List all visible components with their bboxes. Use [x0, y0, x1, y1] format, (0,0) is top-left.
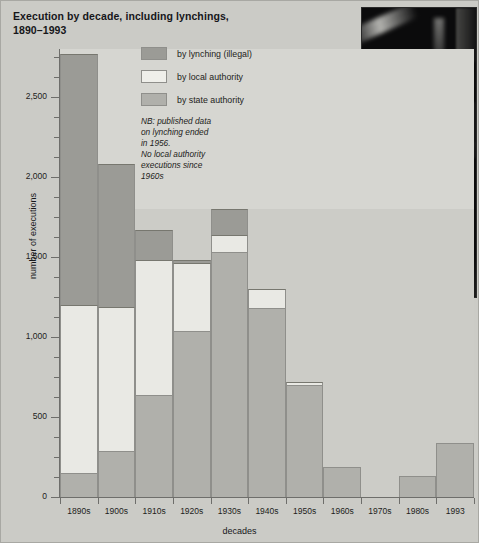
- x-tick: [474, 498, 475, 504]
- legend: by lynching (illegal)by local authorityb…: [141, 47, 331, 182]
- bar-segment-state-1940s: [248, 308, 286, 497]
- bar-segment-local-1930s: [211, 235, 249, 253]
- legend-note-line: NB: published data: [141, 116, 331, 127]
- y-minor-tick: [54, 477, 60, 478]
- bar-segment-state-1960s: [323, 467, 361, 497]
- y-minor-tick: [54, 457, 60, 458]
- y-axis-title: number of executions: [28, 166, 38, 306]
- x-tick: [135, 498, 136, 504]
- bar-1900s[interactable]: [98, 164, 136, 497]
- y-tick-label-0: 0: [1, 491, 47, 501]
- x-tick: [248, 498, 249, 504]
- y-minor-tick: [54, 397, 60, 398]
- y-tick-label-2500: 2,500: [1, 91, 47, 101]
- y-tick-1000: [51, 337, 60, 338]
- x-axis-line: [59, 497, 474, 498]
- y-tick-0: [51, 497, 60, 498]
- x-tick: [323, 498, 324, 504]
- legend-note-line: on lynching ended: [141, 127, 331, 138]
- bar-segment-state-1910s: [135, 395, 173, 497]
- legend-swatch-0: [141, 47, 167, 60]
- bar-segment-lynch-1910s: [135, 230, 173, 260]
- bar-segment-local-1940s: [248, 289, 286, 308]
- y-tick-label-2000: 2,000: [1, 171, 47, 181]
- bar-1980s[interactable]: [399, 476, 437, 497]
- bar-segment-state-1980s: [399, 476, 437, 497]
- bar-segment-local-1900s: [98, 307, 136, 451]
- x-tick-label-1993: 1993: [432, 506, 478, 516]
- chart-title: Execution by decade, including lynchings…: [13, 9, 353, 37]
- x-tick: [211, 498, 212, 504]
- y-minor-tick: [54, 317, 60, 318]
- x-tick: [399, 498, 400, 504]
- bar-segment-local-1910s: [135, 260, 173, 394]
- y-tick-label-500: 500: [1, 411, 47, 421]
- legend-note-line: 1960s: [141, 171, 331, 182]
- legend-note: NB: published dataon lynching endedin 19…: [141, 116, 331, 182]
- bar-1890s[interactable]: [60, 54, 98, 497]
- bar-segment-lynch-1930s: [211, 209, 249, 235]
- x-tick: [436, 498, 437, 504]
- bar-segment-lynch-1920s: [173, 260, 211, 263]
- legend-note-line: executions since: [141, 160, 331, 171]
- y-minor-tick: [54, 377, 60, 378]
- bar-segment-lynch-1900s: [98, 164, 136, 306]
- chart-container: Execution by decade, including lynchings…: [0, 0, 479, 543]
- photo-highlight-top: [361, 7, 418, 46]
- chart-title-line1: Execution by decade, including lynchings…: [13, 9, 353, 23]
- bar-segment-state-1890s: [60, 473, 98, 497]
- bar-1940s[interactable]: [248, 289, 286, 497]
- y-tick-2000: [51, 177, 60, 178]
- legend-label-0: by lynching (illegal): [177, 49, 252, 59]
- legend-label-1: by local authority: [177, 72, 243, 82]
- legend-item-0[interactable]: by lynching (illegal): [141, 47, 331, 60]
- y-minor-tick: [54, 237, 60, 238]
- y-minor-tick: [54, 157, 60, 158]
- x-tick: [60, 498, 61, 504]
- legend-note-line: in 1956.: [141, 138, 331, 149]
- bar-segment-local-1890s: [60, 305, 98, 473]
- legend-swatch-2: [141, 93, 167, 106]
- bar-segment-local-1920s: [173, 263, 211, 330]
- y-minor-tick: [54, 357, 60, 358]
- y-tick-2500: [51, 97, 60, 98]
- y-tick-1500: [51, 257, 60, 258]
- legend-label-2: by state authority: [177, 95, 244, 105]
- bar-segment-local-1950s: [286, 382, 324, 385]
- legend-item-1[interactable]: by local authority: [141, 70, 331, 83]
- y-minor-tick: [54, 117, 60, 118]
- x-tick: [286, 498, 287, 504]
- legend-swatch-1: [141, 70, 167, 83]
- y-minor-tick: [54, 277, 60, 278]
- x-tick: [98, 498, 99, 504]
- bar-1960s[interactable]: [323, 467, 361, 497]
- x-tick: [361, 498, 362, 504]
- y-minor-tick: [54, 297, 60, 298]
- legend-item-2[interactable]: by state authority: [141, 93, 331, 106]
- bar-1930s[interactable]: [211, 209, 249, 497]
- y-minor-tick: [54, 137, 60, 138]
- y-tick-500: [51, 417, 60, 418]
- y-minor-tick: [54, 217, 60, 218]
- x-axis-title: decades: [1, 526, 478, 536]
- bar-1950s[interactable]: [286, 382, 324, 497]
- x-tick: [173, 498, 174, 504]
- bar-1920s[interactable]: [173, 260, 211, 497]
- chart-title-line2: 1890–1993: [13, 23, 353, 37]
- bar-1910s[interactable]: [135, 230, 173, 497]
- bar-segment-state-1993: [436, 443, 474, 497]
- bar-1993[interactable]: [436, 443, 474, 497]
- y-minor-tick: [54, 57, 60, 58]
- bar-segment-state-1920s: [173, 331, 211, 497]
- bar-segment-state-1950s: [286, 385, 324, 497]
- y-minor-tick: [54, 77, 60, 78]
- y-minor-tick: [54, 437, 60, 438]
- bar-segment-state-1930s: [211, 252, 249, 497]
- legend-note-line: No local authority: [141, 149, 331, 160]
- bar-segment-state-1900s: [98, 451, 136, 497]
- y-tick-label-1000: 1,000: [1, 331, 47, 341]
- bar-segment-lynch-1890s: [60, 54, 98, 305]
- y-tick-label-1500: 1,500: [1, 251, 47, 261]
- y-minor-tick: [54, 197, 60, 198]
